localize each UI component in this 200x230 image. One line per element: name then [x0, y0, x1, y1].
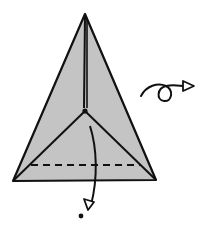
target-dot — [79, 214, 84, 219]
turn-over-icon — [141, 81, 194, 101]
origami-diagram: Origami step: fold tip down, then turn o… — [0, 0, 200, 230]
